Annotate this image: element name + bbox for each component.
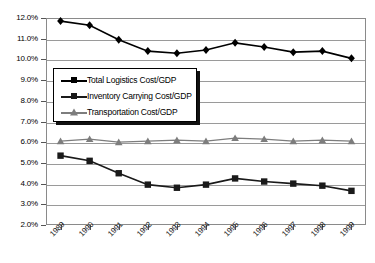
y-axis-tick-label: 8.0% [21, 97, 38, 105]
y-axis: 12.0%11.0%10.0%9.0%8.0%7.0%6.0%5.0%4.0%3… [0, 0, 46, 263]
x-axis: 1989199019911992199319941995199619971998… [0, 225, 375, 263]
legend-item-total-logistics: Total Logistics Cost/GDP [54, 72, 196, 88]
legend: Total Logistics Cost/GDP Inventory Carry… [53, 68, 197, 122]
y-axis-tick-mark [41, 163, 46, 164]
y-axis-tick-mark [41, 122, 46, 123]
gridline [47, 205, 365, 206]
gridline [47, 143, 365, 144]
legend-item-inventory-carrying: Inventory Carrying Cost/GDP [54, 88, 196, 104]
y-axis-tick-label: 12.0% [16, 14, 38, 22]
triangle-marker-icon [61, 106, 87, 118]
y-axis-tick-mark [41, 101, 46, 102]
gridline [47, 60, 365, 61]
y-axis-tick-label: 6.0% [21, 138, 38, 146]
legend-item-transportation: Transportation Cost/GDP [54, 104, 196, 120]
y-axis-tick-mark [41, 142, 46, 143]
legend-label-total-logistics: Total Logistics Cost/GDP [87, 76, 176, 85]
diamond-marker-icon [61, 74, 87, 86]
y-axis-tick-mark [41, 204, 46, 205]
y-axis-tick-label: 4.0% [21, 180, 38, 188]
y-axis-tick-label: 11.0% [17, 35, 38, 43]
gridline [47, 185, 365, 186]
square-marker-icon [61, 90, 87, 102]
y-axis-tick-label: 7.0% [21, 118, 38, 126]
legend-label-transportation: Transportation Cost/GDP [87, 108, 178, 117]
y-axis-tick-mark [41, 80, 46, 81]
y-axis-tick-label: 3.0% [21, 200, 38, 208]
y-axis-tick-label: 10.0% [16, 55, 38, 63]
logistics-cost-gdp-chart: 12.0%11.0%10.0%9.0%8.0%7.0%6.0%5.0%4.0%3… [0, 0, 375, 263]
y-axis-tick-mark [41, 39, 46, 40]
y-axis-tick-mark [41, 18, 46, 19]
y-axis-tick-label: 9.0% [21, 76, 38, 84]
legend-label-inventory-carrying: Inventory Carrying Cost/GDP [87, 92, 192, 101]
y-axis-tick-label: 5.0% [21, 159, 38, 167]
gridline [47, 164, 365, 165]
gridline [47, 123, 365, 124]
gridline [47, 40, 365, 41]
y-axis-tick-mark [41, 184, 46, 185]
y-axis-tick-mark [41, 59, 46, 60]
